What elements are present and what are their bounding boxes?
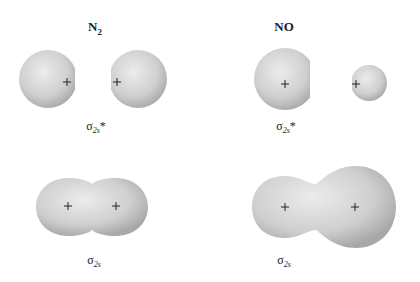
no-sigma-orbital (252, 166, 396, 248)
n2-antibonding-label: σ2s* (86, 119, 106, 135)
n2-sigma-orbital (36, 178, 148, 236)
n2-title: N2 (88, 19, 102, 37)
n2-antibonding-right-lobe (109, 50, 167, 108)
n2-sigma-star-orbital (19, 50, 167, 108)
no-antibonding-label: σ2s* (276, 119, 296, 135)
no-antibonding-large-lobe (254, 48, 316, 110)
no-title: NO (274, 19, 294, 37)
no-sigma-star-orbital (254, 48, 387, 110)
n2-antibonding-left-lobe (19, 50, 77, 108)
orbital-diagram (0, 0, 420, 282)
no-bonding-label: σ2s (277, 253, 291, 269)
n2-bonding-label: σ2s (87, 253, 101, 269)
